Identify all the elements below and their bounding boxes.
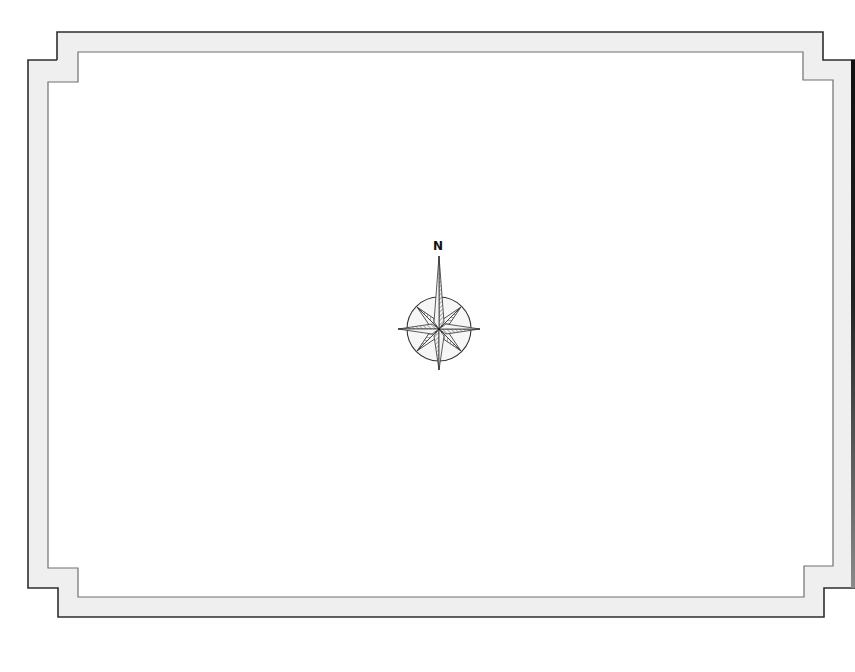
map-canvas: N [0, 0, 855, 672]
compass-cardinal-points [398, 256, 480, 370]
compass-center-dot [438, 328, 440, 330]
compass-north-label: N [433, 239, 443, 253]
compass-rose: N [0, 0, 855, 672]
compass-north-point [434, 256, 444, 329]
